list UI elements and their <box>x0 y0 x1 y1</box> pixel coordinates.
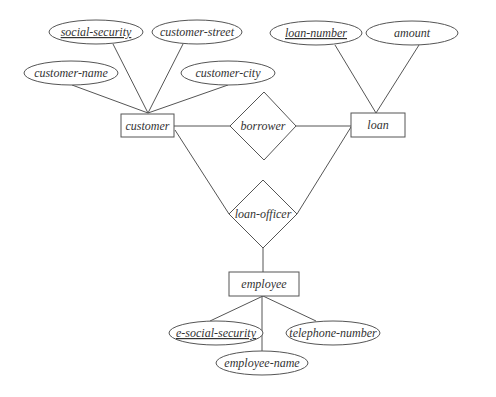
attribute-e-social-security: e-social-security <box>169 321 263 345</box>
attribute-amount: amount <box>366 21 458 45</box>
attribute-employee-name: employee-name <box>216 351 308 375</box>
relationship-borrower: borrower <box>230 92 296 160</box>
attribute-label: loan-number <box>285 26 347 40</box>
entity-loan: loan <box>351 113 405 137</box>
attribute-label: customer-street <box>160 25 235 39</box>
edge-social-security-customer <box>113 44 148 113</box>
entity-label: customer <box>126 119 170 133</box>
entity-label: employee <box>241 277 287 291</box>
relationship-label: loan-officer <box>235 207 292 221</box>
attribute-label: amount <box>394 26 431 40</box>
attribute-loan-number: loan-number <box>270 21 362 45</box>
edge-customer-name-customer <box>72 85 148 113</box>
attribute-social-security: social-security <box>49 20 143 44</box>
edge-employee-e-social-security <box>210 296 263 321</box>
entity-label: loan <box>367 118 388 132</box>
attribute-label: customer-name <box>34 66 108 80</box>
edge-loan-number-loan <box>335 45 376 113</box>
entity-employee: employee <box>229 272 299 296</box>
attribute-customer-name: customer-name <box>24 61 118 85</box>
edge-amount-loan <box>376 45 419 113</box>
attribute-label: e-social-security <box>176 326 257 340</box>
edge-employee-telephone-number <box>263 296 316 321</box>
attribute-label: customer-city <box>195 66 261 80</box>
attribute-customer-city: customer-city <box>181 61 275 85</box>
entity-customer: customer <box>121 114 174 137</box>
attribute-label: social-security <box>61 25 132 39</box>
attribute-label: telephone-number <box>289 326 377 340</box>
attribute-customer-street: customer-street <box>152 20 242 44</box>
er-diagram-canvas: social-security customer-street customer… <box>0 0 496 397</box>
edge-customer-loan-officer <box>175 130 229 214</box>
edge-loan-loan-officer <box>297 127 351 214</box>
attribute-telephone-number: telephone-number <box>286 321 380 345</box>
relationship-loan-officer: loan-officer <box>229 180 297 248</box>
relationship-label: borrower <box>241 119 286 133</box>
attribute-label: employee-name <box>224 356 300 370</box>
